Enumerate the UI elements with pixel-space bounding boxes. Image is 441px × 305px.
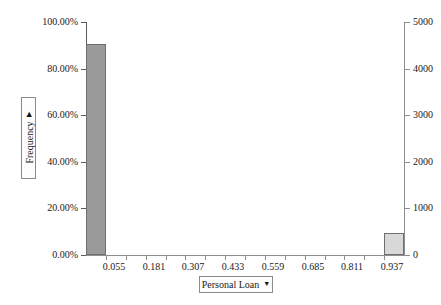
x-axis-tick — [384, 256, 385, 260]
y-axis-right-tick-label: 4000 — [413, 64, 433, 74]
x-axis-tick-label: 0.307 — [182, 262, 205, 272]
y-axis-right-tick — [405, 22, 410, 23]
x-axis-tick-label: 0.559 — [262, 262, 285, 272]
x-axis-tick-label: 0.181 — [143, 262, 166, 272]
x-axis-title-label: Personal Loan — [202, 279, 260, 290]
y-axis-right-tick-label: 5000 — [413, 17, 433, 27]
y-axis-right-tick-label: 2000 — [413, 157, 433, 167]
x-axis-tick — [245, 256, 246, 260]
y-axis-right-tick — [405, 208, 410, 209]
x-axis-tick — [205, 256, 206, 260]
y-axis-left-tick-label: 0.00% — [18, 250, 78, 260]
y-axis-right-tick — [405, 162, 410, 163]
x-axis-tick-label: 0.811 — [341, 262, 363, 272]
x-axis-tick — [344, 256, 345, 260]
x-axis-tick — [325, 256, 326, 260]
y-axis-right-tick — [405, 69, 410, 70]
triangle-right-icon[interactable]: ▶ — [25, 112, 32, 117]
x-axis-tick — [364, 256, 365, 260]
x-axis-tick-label: 0.055 — [103, 262, 126, 272]
x-axis-tick — [106, 256, 107, 260]
histogram-bar[interactable] — [384, 233, 404, 255]
y-axis-field-inner: Frequency ▶ — [23, 112, 34, 163]
y-axis-field-frequency[interactable]: Frequency ▶ — [21, 97, 36, 179]
histogram-chart: 0.00%20.00%40.00%60.00%80.00%100.00% 010… — [0, 0, 441, 305]
x-axis-tick — [146, 256, 147, 260]
x-axis-tick-label: 0.685 — [302, 262, 325, 272]
y-axis-right-tick-label: 1000 — [413, 203, 433, 213]
x-axis-tick — [166, 256, 167, 260]
x-axis-tick — [185, 256, 186, 260]
x-axis-field-personal-loan[interactable]: Personal Loan ▼ — [199, 276, 273, 293]
x-axis-tick-label: 0.433 — [222, 262, 245, 272]
x-axis-tick — [225, 256, 226, 260]
triangle-down-icon[interactable]: ▼ — [263, 281, 270, 288]
x-axis-tick — [126, 256, 127, 260]
y-axis-right-tick-label: 0 — [413, 250, 418, 260]
y-axis-left-tick-label: 100.00% — [18, 17, 78, 27]
y-axis-right-spine — [404, 22, 405, 256]
y-axis-title-label: Frequency — [23, 121, 34, 163]
y-axis-left-tick — [81, 255, 86, 256]
y-axis-right-tick — [405, 255, 410, 256]
y-axis-right-tick — [405, 115, 410, 116]
histogram-bar[interactable] — [86, 44, 106, 255]
y-axis-right-tick-label: 3000 — [413, 110, 433, 120]
x-axis-tick — [265, 256, 266, 260]
y-axis-right-tick-labels: 010002000300040005000 — [413, 0, 441, 305]
x-axis-tick — [285, 256, 286, 260]
y-axis-left-tick-label: 20.00% — [18, 203, 78, 213]
x-axis-tick — [305, 256, 306, 260]
x-axis-tick-label: 0.937 — [381, 262, 404, 272]
plot-area — [86, 22, 404, 255]
y-axis-left-tick-label: 80.00% — [18, 64, 78, 74]
